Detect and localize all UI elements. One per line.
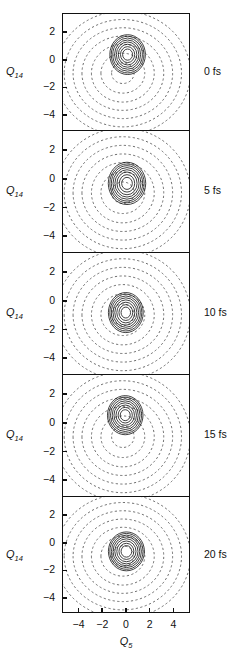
- contour-figure: 20−2−4Q140 fs20−2−4Q145 fs20−2−4Q1410 fs…: [0, 0, 250, 653]
- y-axis-tick-label: 0: [33, 172, 55, 184]
- y-axis-tick-label: −4: [33, 473, 55, 485]
- y-axis-tick: [62, 178, 67, 180]
- y-axis-tick-label: −2: [33, 80, 55, 92]
- y-axis-tick: [62, 271, 67, 273]
- potential-contours: [63, 375, 190, 496]
- y-axis-tick: [62, 479, 67, 481]
- y-axis-tick: [62, 422, 67, 424]
- y-axis-tick-label: −2: [33, 201, 55, 213]
- wavepacket-contours: [108, 293, 143, 333]
- potential-contours: [63, 131, 190, 252]
- panel-time-label: 10 fs: [204, 306, 227, 318]
- y-axis-tick: [62, 329, 67, 331]
- y-axis-tick: [62, 235, 67, 237]
- potential-contours: [63, 14, 190, 130]
- y-axis-tick-label: −2: [33, 445, 55, 457]
- x-axis-tick-label: 4: [163, 618, 183, 630]
- x-axis-title: Q5: [106, 635, 146, 650]
- x-axis-tick: [78, 608, 80, 613]
- y-axis-tick: [62, 59, 67, 61]
- contour-panel: [62, 496, 190, 613]
- y-axis-tick-label: 0: [33, 294, 55, 306]
- x-axis-tick: [149, 608, 151, 613]
- x-axis-tick: [125, 608, 127, 613]
- y-axis-tick: [62, 357, 67, 359]
- panel-time-label: 20 fs: [204, 548, 227, 560]
- panel-time-label: 5 fs: [204, 184, 221, 196]
- y-axis-tick: [62, 207, 67, 209]
- y-axis-tick: [62, 87, 67, 89]
- contour-panel: [62, 374, 190, 496]
- y-axis-tick-label: −2: [33, 323, 55, 335]
- panel-stack: [62, 13, 190, 613]
- y-axis-tick: [62, 149, 67, 151]
- y-axis-tick: [62, 597, 67, 599]
- y-axis-tick: [62, 542, 67, 544]
- potential-contours: [63, 497, 190, 613]
- x-axis-tick-label: −2: [92, 618, 112, 630]
- y-axis-title: Q14: [6, 184, 23, 199]
- y-axis-title: Q14: [6, 306, 23, 321]
- y-axis-tick: [62, 451, 67, 453]
- contour-panel: [62, 13, 190, 130]
- y-axis-title: Q14: [6, 548, 23, 563]
- y-axis-tick-label: −4: [33, 229, 55, 241]
- y-axis-tick-label: 0: [33, 416, 55, 428]
- y-axis-tick-label: −2: [33, 563, 55, 575]
- y-axis-tick-label: −4: [33, 351, 55, 363]
- y-axis-tick: [62, 514, 67, 516]
- y-axis-tick: [62, 393, 67, 395]
- wavepacket-contours: [108, 162, 145, 204]
- x-axis-tick-label: 2: [140, 618, 160, 630]
- y-axis-tick-label: −4: [33, 108, 55, 120]
- contour-panel: [62, 252, 190, 374]
- y-axis-tick: [62, 31, 67, 33]
- wavepacket-contours: [107, 396, 143, 435]
- y-axis-tick: [62, 570, 67, 572]
- x-axis-tick: [173, 608, 175, 613]
- y-axis-tick-label: 2: [33, 508, 55, 520]
- panel-time-label: 15 fs: [204, 428, 227, 440]
- y-axis-tick: [62, 300, 67, 302]
- wavepacket-contours: [108, 532, 144, 571]
- x-axis-tick: [101, 608, 103, 613]
- y-axis-title: Q14: [6, 428, 23, 443]
- potential-contours: [63, 253, 190, 374]
- y-axis-title: Q14: [6, 65, 23, 80]
- y-axis-tick-label: 0: [33, 53, 55, 65]
- y-axis-tick-label: 2: [33, 25, 55, 37]
- y-axis-tick: [62, 114, 67, 116]
- contour-panel: [62, 130, 190, 252]
- x-axis-tick-label: 0: [116, 618, 136, 630]
- y-axis-tick-label: −4: [33, 591, 55, 603]
- y-axis-tick-label: 2: [33, 387, 55, 399]
- y-axis-tick-label: 2: [33, 265, 55, 277]
- panel-time-label: 0 fs: [204, 65, 221, 77]
- x-axis-tick-label: −4: [69, 618, 89, 630]
- y-axis-tick-label: 2: [33, 143, 55, 155]
- y-axis-tick-label: 0: [33, 536, 55, 548]
